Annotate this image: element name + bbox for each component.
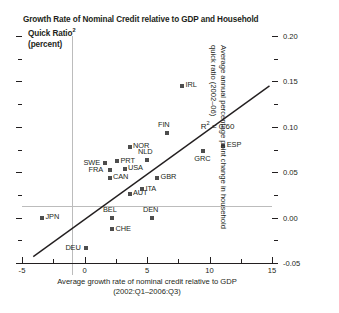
data-point-label-can: CAN	[113, 172, 128, 181]
y-tick-minor-right-3	[274, 104, 278, 105]
data-point-label-bel: BEL	[103, 205, 117, 214]
data-point-usa	[123, 167, 127, 171]
y-tick-label-3: 0.10	[283, 123, 298, 132]
x-tick-minor-2	[178, 259, 179, 263]
y-tick-label-1: 0.00	[283, 214, 298, 223]
chart-figure: Growth Rate of Nominal Credit relative t…	[0, 0, 339, 313]
x-tick-label-1: 0	[73, 266, 97, 275]
x-tick-2	[147, 257, 148, 263]
x-axis-title-line-1: Average growth rate of nominal credit re…	[22, 277, 272, 287]
y-tick-left-0	[16, 263, 22, 264]
y-tick-right-2	[272, 172, 278, 173]
x-tick-minor-3	[241, 259, 242, 263]
y-tick-left-2	[16, 172, 22, 173]
y-tick-minor-right-1	[274, 195, 278, 196]
data-point-label-che: CHE	[116, 224, 131, 233]
plot-area: -5051015 -0.050.000.050.100.150.20 IRLFI…	[0, 0, 339, 313]
data-point-label-usa: USA	[128, 163, 143, 172]
data-point-nld	[145, 158, 149, 162]
data-point-label-fra: FRA	[89, 165, 103, 174]
x-tick-1	[85, 257, 86, 263]
y-tick-minor-left-3	[18, 104, 22, 105]
data-point-grc	[201, 149, 205, 153]
data-point-label-fin: FIN	[158, 120, 170, 129]
data-point-can	[108, 176, 112, 180]
data-point-label-esp: ESP	[227, 140, 242, 149]
x-tick-label-0: -5	[10, 266, 34, 275]
y-tick-right-1	[272, 218, 278, 219]
y-tick-minor-left-0	[18, 240, 22, 241]
data-point-label-nld: NLD	[138, 147, 153, 156]
y-tick-label-5: 0.20	[283, 32, 298, 41]
y-tick-minor-right-4	[274, 59, 278, 60]
y-tick-label-4: 0.15	[283, 77, 298, 86]
x-tick-label-3: 10	[198, 266, 222, 275]
data-point-gbr	[155, 176, 159, 180]
data-point-irl	[180, 84, 184, 88]
data-point-swe	[103, 161, 107, 165]
y-tick-left-5	[16, 36, 22, 37]
y-tick-minor-right-0	[274, 240, 278, 241]
data-point-nor	[128, 145, 132, 149]
y-tick-left-3	[16, 127, 22, 128]
y-tick-right-4	[272, 81, 278, 82]
data-point-fra	[108, 168, 112, 172]
y-tick-right-5	[272, 36, 278, 37]
data-point-label-ita: ITA	[146, 184, 157, 193]
x-tick-label-2: 5	[135, 266, 159, 275]
y-tick-minor-left-4	[18, 59, 22, 60]
x-tick-minor-0	[53, 259, 54, 263]
y-tick-label-2: 0.05	[283, 168, 298, 177]
y-axis-title-line-2: quick ratio (2002–06)	[208, 45, 218, 205]
y-tick-minor-left-1	[18, 195, 22, 196]
data-point-prt	[115, 159, 119, 163]
x-tick-minor-1	[116, 259, 117, 263]
y-tick-left-4	[16, 81, 22, 82]
zero-line-vertical	[72, 36, 73, 275]
x-axis-line	[22, 263, 272, 264]
y-axis-title: Average annual percentage point change i…	[208, 45, 228, 205]
data-point-che	[110, 227, 114, 231]
data-point-label-den: DEN	[143, 205, 158, 214]
y-tick-label-0: -0.05	[283, 259, 300, 268]
data-point-label-irl: IRL	[186, 80, 197, 89]
x-tick-label-4: 15	[260, 266, 284, 275]
x-axis-title: Average growth rate of nominal credit re…	[22, 277, 272, 297]
data-point-label-gbr: GBR	[161, 172, 177, 181]
y-tick-left-1	[16, 218, 22, 219]
y-tick-minor-left-2	[18, 150, 22, 151]
x-tick-3	[210, 257, 211, 263]
data-point-fin	[165, 131, 169, 135]
data-point-bel	[110, 216, 114, 220]
data-point-aut	[128, 192, 132, 196]
y-tick-right-3	[272, 127, 278, 128]
data-point-label-deu: DEU	[65, 243, 80, 252]
x-axis-title-line-2: (2002:Q1–2006:Q3)	[22, 287, 272, 297]
data-point-label-jpn: JPN	[46, 212, 60, 221]
data-point-deu	[84, 246, 88, 250]
x-tick-0	[22, 257, 23, 263]
data-point-den	[150, 216, 154, 220]
data-point-ita	[140, 187, 144, 191]
data-point-jpn	[40, 216, 44, 220]
y-tick-minor-right-2	[274, 150, 278, 151]
y-axis-title-line-1: Average annual percentage point change i…	[218, 45, 228, 205]
y-tick-right-0	[272, 263, 278, 264]
